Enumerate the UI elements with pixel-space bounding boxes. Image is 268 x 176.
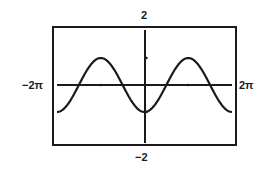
x-max-label: 2π [239, 79, 254, 91]
y-max-label: 2 [141, 9, 147, 21]
x-tick-mark [187, 84, 190, 87]
x-tick-mark [99, 84, 102, 87]
y-min-label: −2 [135, 151, 148, 163]
x-min-label: −2π [22, 79, 43, 91]
y-tick-mark [145, 57, 147, 59]
